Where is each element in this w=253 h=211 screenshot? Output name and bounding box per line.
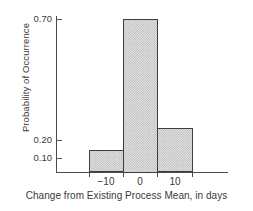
y-tick-label-010: 0.10 <box>18 153 52 163</box>
y-axis-title: Probability of Occurrence <box>20 0 31 158</box>
x-tick-label-10: 10 <box>155 176 195 187</box>
bar-plus10 <box>157 128 193 172</box>
x-tick-label-0: 0 <box>120 176 160 187</box>
y-axis-line <box>56 16 57 173</box>
y-tick-label-020: 0.20 <box>18 135 52 145</box>
y-tick-mark-010 <box>56 158 62 159</box>
y-tick-label-070: 0.70 <box>18 14 52 24</box>
bar-0 <box>123 19 158 173</box>
x-axis-title: Change from Existing Process Mean, in da… <box>0 190 253 201</box>
y-tick-mark-020 <box>56 140 62 141</box>
y-tick-mark-070 <box>56 19 62 20</box>
histogram-figure: Probability of Occurrence 0.70 0.20 0.10… <box>0 0 253 211</box>
bar-minus10 <box>89 150 124 173</box>
